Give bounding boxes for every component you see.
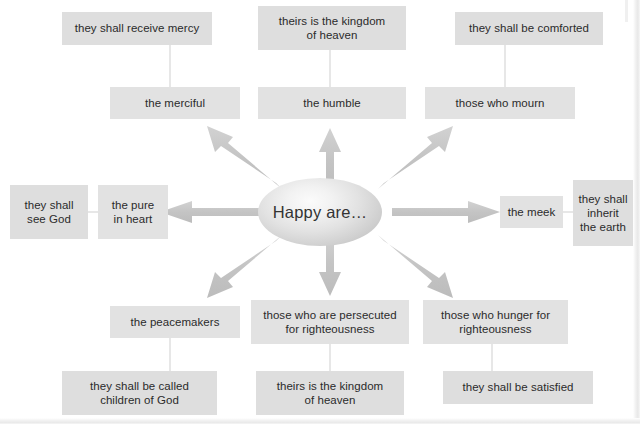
page-edge-right xyxy=(633,0,640,424)
trait-the-humble: the humble xyxy=(258,87,406,119)
promise-line-2: of heaven xyxy=(305,394,356,406)
trait-text: those who mourn xyxy=(456,96,545,110)
trait-text: the humble xyxy=(303,96,360,110)
trait-the-pure-in-heart: the pure in heart xyxy=(98,185,168,239)
promise-text: they shall be comforted xyxy=(469,21,589,35)
trait-text: the meek xyxy=(508,205,556,219)
trait-line-1: those who hunger for xyxy=(441,309,550,321)
trait-the-meek: the meek xyxy=(500,196,563,228)
center-node: Happy are… xyxy=(258,178,382,246)
promise-line-2: see God xyxy=(27,213,71,225)
trait-those-who-mourn: those who mourn xyxy=(425,87,575,119)
promise-line-1: they shall be called xyxy=(90,380,189,392)
promise-text: they shall receive mercy xyxy=(75,21,200,35)
trait-line-1: the pure xyxy=(112,199,155,211)
arrow-up-right xyxy=(378,126,453,189)
promise-text: they shall be satisfied xyxy=(462,380,573,394)
arrow-right xyxy=(392,201,500,223)
arrow-up-left xyxy=(207,126,282,189)
trait-text: the peacemakers xyxy=(131,315,220,329)
trait-line-1: those who are persecuted xyxy=(263,309,397,321)
trait-the-peacemakers: the peacemakers xyxy=(110,306,240,338)
promise-inherit-the-earth: they shall inherit the earth xyxy=(573,180,633,246)
trait-text: the merciful xyxy=(145,96,205,110)
promise-line-1: theirs is the kingdom xyxy=(279,15,386,27)
promise-line-2: of heaven xyxy=(307,29,358,41)
arrow-left xyxy=(160,201,268,223)
beatitudes-diagram: Happy are… they shall receive mercy the … xyxy=(0,0,640,424)
promise-receive-mercy: they shall receive mercy xyxy=(62,12,212,45)
promise-be-satisfied: they shall be satisfied xyxy=(443,371,593,404)
page-edge-top-mark xyxy=(625,0,628,22)
trait-text: those who hunger for righteousness xyxy=(441,308,550,336)
trait-the-merciful: the merciful xyxy=(110,87,240,119)
promise-text: theirs is the kingdom of heaven xyxy=(277,379,384,407)
promise-see-god: they shall see God xyxy=(10,185,88,239)
promise-line-3: the earth xyxy=(580,221,626,233)
trait-text: the pure in heart xyxy=(112,198,155,226)
promise-text: theirs is the kingdom of heaven xyxy=(279,14,386,42)
trait-text: those who are persecuted for righteousne… xyxy=(263,308,397,336)
promise-text: they shall be called children of God xyxy=(90,379,189,407)
arrow-down-right xyxy=(378,235,453,298)
trait-line-2: righteousness xyxy=(459,323,531,335)
promise-line-1: theirs is the kingdom xyxy=(277,380,384,392)
promise-children-of-god: they shall be called children of God xyxy=(62,371,217,415)
promise-line-2: inherit xyxy=(587,207,619,219)
promise-text: they shall see God xyxy=(24,198,73,226)
promise-be-comforted: they shall be comforted xyxy=(455,12,603,45)
trait-line-2: in heart xyxy=(114,213,153,225)
promise-line-1: they shall xyxy=(24,199,73,211)
trait-those-persecuted: those who are persecuted for righteousne… xyxy=(251,300,409,344)
trait-line-2: for righteousness xyxy=(285,323,374,335)
promise-kingdom-of-heaven-top: theirs is the kingdom of heaven xyxy=(258,6,406,50)
page-edge-bottom xyxy=(0,418,640,424)
promise-kingdom-of-heaven-bottom: theirs is the kingdom of heaven xyxy=(256,371,404,415)
trait-those-who-hunger: those who hunger for righteousness xyxy=(423,300,568,344)
promise-line-2: children of God xyxy=(100,394,179,406)
promise-text: they shall inherit the earth xyxy=(578,192,627,234)
promise-line-1: they shall xyxy=(578,193,627,205)
arrow-down-left xyxy=(207,235,282,298)
